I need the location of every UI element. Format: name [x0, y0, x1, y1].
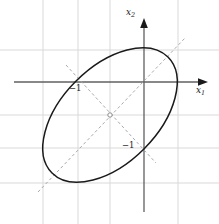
plot-canvas: [0, 0, 219, 224]
x2-axis-label-subscript: 2: [131, 11, 135, 19]
y-axis-arrow-icon: [140, 18, 148, 28]
x1-axis-label: x1: [196, 86, 205, 95]
y-axis-tick-label: −1: [122, 141, 135, 150]
ellipse-figure: x1 x2 −1 −1: [0, 0, 219, 224]
x-axis-tick-label: −1: [69, 84, 82, 93]
grid-lines: [0, 0, 219, 224]
x1-axis-label-subscript: 1: [201, 89, 205, 97]
ellipse-center-marker: [108, 113, 112, 117]
x2-axis-label: x2: [126, 8, 135, 17]
